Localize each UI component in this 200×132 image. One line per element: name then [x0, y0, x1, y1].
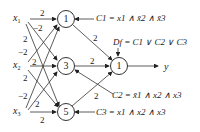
- weight-x1-n3: −2: [33, 24, 43, 33]
- hidden-node-5: 5: [57, 103, 75, 121]
- weight-x1-n5: 2: [23, 35, 28, 44]
- input-x3-label: x3: [13, 106, 20, 117]
- weight-x3-n1: −2: [18, 92, 28, 101]
- output-node: 1: [110, 57, 128, 75]
- weight-x2-n5: 2: [23, 74, 28, 83]
- weight-n5-out: 2: [94, 92, 99, 101]
- equation-df: Df = C1 ∨ C2 ∨ C3: [113, 38, 187, 47]
- weight-x3-n3: 2: [35, 100, 40, 109]
- hidden-node-1: 1: [57, 10, 75, 28]
- neural-network-diagram: x1 x2 x3 2 −2 2 −2 2 2 −2 2 2 2 2 2 1 3 …: [0, 0, 200, 132]
- input-x1-label: x1: [13, 13, 20, 24]
- weight-n1-out: 2: [93, 34, 98, 43]
- weight-x2-n3: 2: [32, 58, 37, 67]
- input-x2-label: x2: [13, 60, 20, 71]
- equation-c1: C1 = x1 ∧ x̄2 ∧ x̄3: [96, 14, 166, 23]
- hidden-node-3: 3: [57, 57, 75, 75]
- weight-n3-out: 2: [90, 57, 95, 66]
- weight-x1-n1: 2: [40, 9, 45, 18]
- output-y-label: y: [164, 62, 168, 72]
- equation-c2: C2 = x̄1 ∧ x2 ∧ x3: [112, 91, 182, 100]
- weight-x3-n5: 2: [40, 116, 45, 125]
- weight-x2-n1: −2: [18, 48, 28, 57]
- equation-c3: C3 = x1 ∧ x2 ∧ x3: [96, 108, 166, 117]
